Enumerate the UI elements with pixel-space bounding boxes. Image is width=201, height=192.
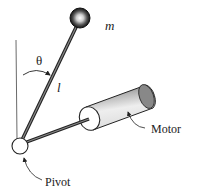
- pendulum-diagram: m θ l Motor Pivot: [0, 0, 201, 192]
- pivot-label: Pivot: [45, 175, 71, 189]
- pendulum-mass: [70, 8, 90, 28]
- angle-arrow: [23, 71, 50, 76]
- motor: [76, 82, 157, 133]
- motor-label: Motor: [151, 122, 181, 136]
- length-label: l: [57, 80, 61, 95]
- vertical-reference-line: [16, 40, 17, 140]
- angle-label: θ: [36, 53, 42, 68]
- pivot-circle: [12, 138, 28, 154]
- pivot-leader-arrow: [24, 158, 42, 180]
- mass-label: m: [105, 18, 114, 33]
